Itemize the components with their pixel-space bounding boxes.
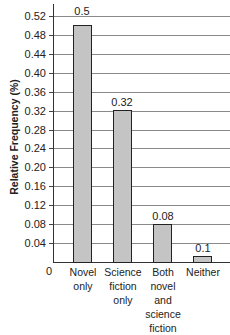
x-category-label: Neither bbox=[181, 265, 225, 279]
y-tick-label: 0.48 bbox=[10, 29, 46, 41]
zero-label: 0 bbox=[46, 265, 52, 277]
y-tick-label: 0.20 bbox=[10, 161, 46, 173]
y-tick-label: 0.28 bbox=[10, 124, 46, 136]
y-tick-label: 0.52 bbox=[10, 10, 46, 22]
bar-novel-only bbox=[73, 25, 92, 263]
bar-both bbox=[153, 224, 172, 263]
data-label: 0.5 bbox=[62, 5, 102, 17]
x-category-label: Science fiction only bbox=[101, 265, 145, 307]
y-tick-label: 0.32 bbox=[10, 105, 46, 117]
y-tick-label: 0.12 bbox=[10, 199, 46, 211]
y-tick-label: 0.36 bbox=[10, 86, 46, 98]
y-tick-label: 0.04 bbox=[10, 237, 46, 249]
data-label: 0.1 bbox=[183, 242, 223, 254]
x-category-label: Both novel and science fiction bbox=[141, 265, 185, 335]
bar-chart: Relative Frequency (%) 0.52 0.48 0.44 0.… bbox=[0, 0, 230, 335]
y-axis-line bbox=[53, 4, 54, 263]
y-tick-label: 0.40 bbox=[10, 67, 46, 79]
y-tick-label: 0.24 bbox=[10, 142, 46, 154]
y-tick-label: 0.44 bbox=[10, 48, 46, 60]
data-label: 0.08 bbox=[143, 210, 183, 222]
data-label: 0.32 bbox=[102, 96, 142, 108]
bar-science-fiction-only bbox=[113, 110, 132, 263]
bar-neither bbox=[193, 256, 212, 263]
x-category-label: Novel only bbox=[61, 265, 105, 293]
y-tick-label: 0.16 bbox=[10, 180, 46, 192]
y-tick-label: 0.08 bbox=[10, 218, 46, 230]
